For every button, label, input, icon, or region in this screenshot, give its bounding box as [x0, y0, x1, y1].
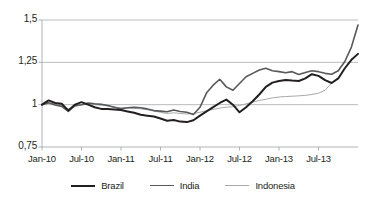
legend-label: Indonesia	[255, 180, 294, 191]
legend-label: India	[180, 180, 200, 191]
series-line-india	[42, 25, 358, 114]
y-tick-label: 1,25	[18, 55, 37, 66]
y-tick-label: 1	[32, 98, 37, 109]
x-tick-label: Jul-13	[295, 153, 343, 164]
legend-item-brazil[interactable]: Brazil	[71, 180, 124, 191]
y-tick-label: 0,75	[18, 140, 37, 151]
gridlines	[42, 20, 358, 105]
legend-label: Brazil	[101, 180, 124, 191]
y-tick-label: 1,5	[24, 13, 37, 24]
chart-legend: BrazilIndiaIndonesia	[0, 180, 366, 191]
axes	[42, 20, 358, 147]
legend-item-indonesia[interactable]: Indonesia	[225, 180, 294, 191]
line-chart: 0,7511,251,5 Jan-10Jul-10Jan-11Jul-11Jan…	[0, 0, 366, 210]
axis-tick-marks	[39, 20, 319, 151]
data-series-group	[42, 25, 358, 122]
chart-plot-area	[0, 0, 366, 210]
legend-swatch-icon	[150, 185, 174, 186]
series-line-indonesia	[42, 83, 332, 114]
legend-swatch-icon	[225, 185, 249, 186]
legend-swatch-icon	[71, 185, 95, 187]
legend-item-india[interactable]: India	[150, 180, 200, 191]
